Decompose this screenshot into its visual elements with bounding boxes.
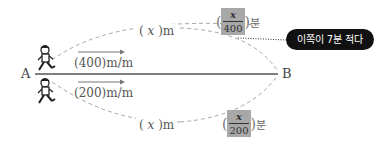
callout-bubble: 이쪽이 7분 적다 xyxy=(286,29,374,50)
distance-var: x xyxy=(148,24,155,38)
lower-distance-label: ( x )m xyxy=(136,118,177,132)
walking-person-icon xyxy=(38,46,55,70)
upper-distance-label: ( x )m xyxy=(136,24,177,38)
lower-time-label: (x200)분 xyxy=(222,110,266,137)
diagram-canvas xyxy=(0,0,385,144)
callout-leader xyxy=(238,38,287,40)
upper-speed-label: (400)m/m xyxy=(74,56,133,70)
arrow-right-icon xyxy=(78,80,125,85)
point-b-label: B xyxy=(282,66,292,81)
distance-var: x xyxy=(148,118,155,132)
paren-open: ( xyxy=(139,24,144,38)
upper-time-label: (x400)분 xyxy=(216,8,260,35)
distance-unit: )m xyxy=(158,24,174,38)
point-a-label: A xyxy=(21,66,30,81)
paren-open: ( xyxy=(139,118,144,132)
distance-unit: )m xyxy=(158,118,174,132)
lower-speed-label: (200)m/m xyxy=(74,86,133,100)
arrow-right-icon xyxy=(78,50,125,55)
lower-time-fraction: x200 xyxy=(227,110,250,137)
upper-time-fraction: x400 xyxy=(221,8,244,35)
